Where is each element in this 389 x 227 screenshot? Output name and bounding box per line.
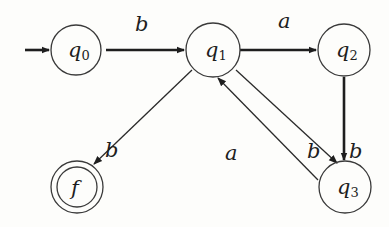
edge-label-q1-q2: a	[278, 9, 291, 33]
state-f-accepting: f	[51, 161, 103, 213]
edge-label-q2-q3: b	[349, 139, 362, 163]
automaton-diagram: q0 q1 q2 q3 f b a b a b b	[0, 0, 389, 227]
svg-text:q0: q0	[68, 38, 90, 63]
edge-label-q1-q3: b	[307, 139, 320, 163]
svg-text:q2: q2	[336, 38, 358, 63]
state-q0: q0	[51, 25, 101, 75]
edge-label-q3-q1: a	[225, 141, 238, 165]
edge-q1-q3	[236, 70, 337, 163]
svg-text:q3: q3	[337, 175, 359, 200]
state-q3: q3	[319, 161, 371, 213]
state-q2: q2	[318, 24, 370, 76]
state-q1: q1	[186, 23, 240, 77]
edge-label-q0-q1: b	[135, 12, 148, 36]
edge-label-q1-f: b	[105, 138, 118, 162]
svg-text:f: f	[69, 176, 82, 200]
svg-text:q1: q1	[205, 38, 227, 63]
